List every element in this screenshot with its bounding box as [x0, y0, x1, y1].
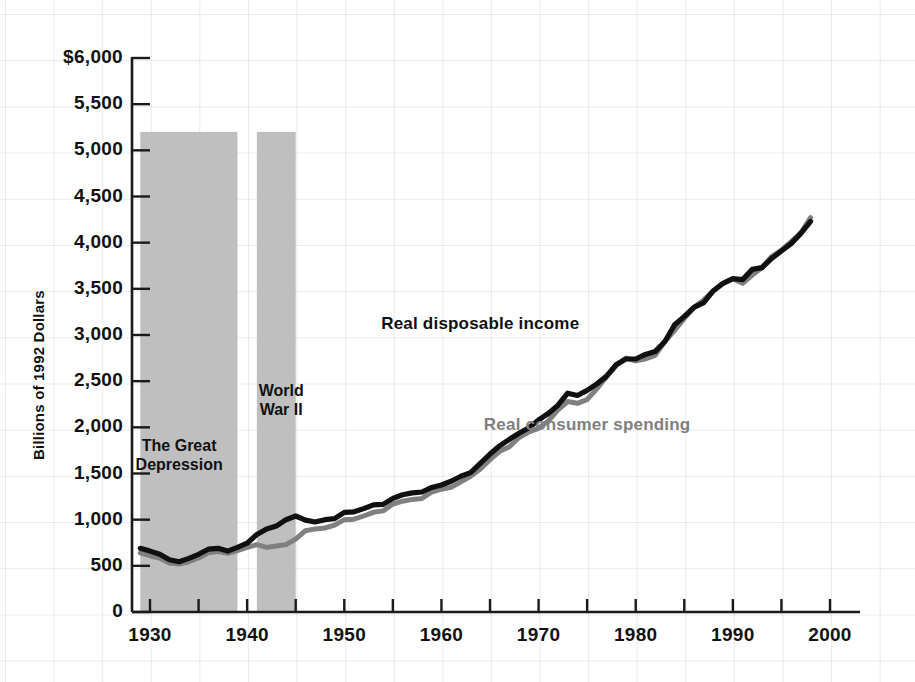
x-axis-tick-label: 1980	[596, 624, 676, 646]
y-axis-tick-label: 5,500	[8, 92, 123, 114]
chart-figure: Billions of 1992 Dollars $6,0005,5005,00…	[0, 0, 915, 682]
y-axis-tick-label: 1,000	[8, 508, 123, 530]
y-axis-tick-label: 3,000	[8, 323, 123, 345]
chart-annotation-2: World War II	[259, 381, 304, 419]
series-line-real-consumer-spending	[140, 218, 810, 564]
y-axis-tick-label: 4,500	[8, 185, 123, 207]
series-line-real-disposable-income	[140, 221, 810, 561]
y-axis-tick-label: 5,000	[8, 138, 123, 160]
chart-annotation-3: Real disposable income	[381, 314, 579, 334]
y-axis-tick-label: 3,500	[8, 277, 123, 299]
x-axis-tick-label: 1970	[499, 624, 579, 646]
y-axis-tick-label: 500	[8, 554, 123, 576]
y-axis-tick-label: 0	[8, 600, 123, 622]
x-axis-tick-label: 1990	[693, 624, 773, 646]
axes-group	[132, 57, 860, 612]
y-axis-tick-label: 2,000	[8, 415, 123, 437]
chart-annotation-4: Real consumer spending	[484, 415, 691, 435]
recession-bands-group	[140, 132, 295, 612]
x-axis-tick-label: 1930	[110, 624, 190, 646]
x-axis-tick-label: 1940	[207, 624, 287, 646]
chart-annotation-1: The Great Depression	[136, 436, 223, 474]
x-axis-tick-label: 1960	[401, 624, 481, 646]
shaded-band-1	[140, 132, 237, 612]
chart-canvas	[0, 0, 915, 682]
x-axis-tick-label: 1950	[304, 624, 384, 646]
series-lines-group	[140, 218, 810, 564]
y-axis-tick-label: 1,500	[8, 462, 123, 484]
x-axis-tick-label: 2000	[790, 624, 870, 646]
y-axis-tick-label: $6,000	[8, 46, 123, 68]
y-axis-tick-label: 2,500	[8, 369, 123, 391]
y-axis-tick-label: 4,000	[8, 231, 123, 253]
